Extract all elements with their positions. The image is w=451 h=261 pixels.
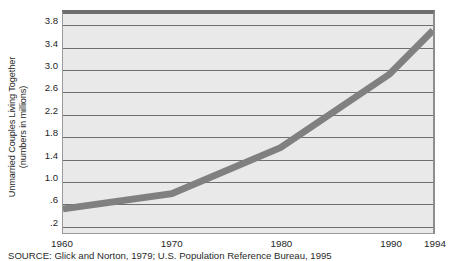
y-tick-label: 3.8	[14, 16, 58, 26]
x-tick-label: 1980	[246, 238, 316, 249]
y-tick-label: .6	[14, 195, 58, 205]
y-axis-tick-labels: 3.83.43.02.62.21.81.41.0.6.2	[14, 10, 58, 234]
x-tick-label: 1970	[137, 238, 207, 249]
x-tick-label: 1960	[27, 238, 97, 249]
series-polyline	[63, 30, 433, 208]
y-tick-label: 1.0	[14, 173, 58, 183]
y-tick-label: 2.6	[14, 83, 58, 93]
source-note: SOURCE: Glick and Norton, 1979; U.S. Pop…	[8, 250, 446, 261]
y-tick-label: 1.8	[14, 128, 58, 138]
y-tick-label: 3.4	[14, 39, 58, 49]
x-axis-tick-labels: 19601970198019901994	[0, 238, 446, 250]
x-tick-label: 1994	[400, 238, 451, 249]
series-line-unmarried-couples	[63, 14, 433, 233]
plot-area	[62, 10, 435, 234]
y-tick-label: .2	[14, 218, 58, 228]
y-tick-label: 2.2	[14, 106, 58, 116]
y-tick-label: 3.0	[14, 61, 58, 71]
y-tick-label: 1.4	[14, 151, 58, 161]
